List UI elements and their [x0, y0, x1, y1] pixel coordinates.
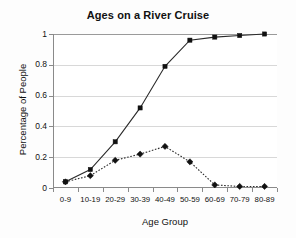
x-tick-mark — [103, 188, 104, 192]
x-tick-mark — [202, 188, 203, 192]
gridline — [54, 65, 277, 66]
y-tick-label: 0.8 — [21, 59, 47, 69]
gridline — [54, 34, 277, 35]
y-tick-label: 0.2 — [21, 152, 47, 162]
chart-title: Ages on a River Cruise — [0, 9, 296, 21]
x-tick-mark — [252, 188, 253, 192]
x-tick-mark — [78, 188, 79, 192]
y-tick-label: 1 — [21, 29, 47, 39]
gridline — [54, 96, 277, 97]
x-tick-mark — [53, 188, 54, 192]
y-tick-label: 0.6 — [21, 90, 47, 100]
y-tick-label: 0 — [21, 183, 47, 193]
x-tick-mark — [227, 188, 228, 192]
gridline — [54, 157, 277, 158]
x-tick-mark — [153, 188, 154, 192]
x-tick-mark — [277, 188, 278, 192]
plot-area — [53, 34, 277, 188]
x-tick-mark — [177, 188, 178, 192]
chart-figure: Ages on a River Cruise Percentage of Peo… — [0, 0, 296, 238]
x-tick-label: 80-89 — [242, 195, 288, 204]
x-axis-label: Age Group — [53, 216, 277, 227]
y-tick-label: 0.4 — [21, 121, 47, 131]
gridline — [54, 126, 277, 127]
x-tick-mark — [128, 188, 129, 192]
y-axis-label: Percentage of People — [17, 30, 28, 190]
